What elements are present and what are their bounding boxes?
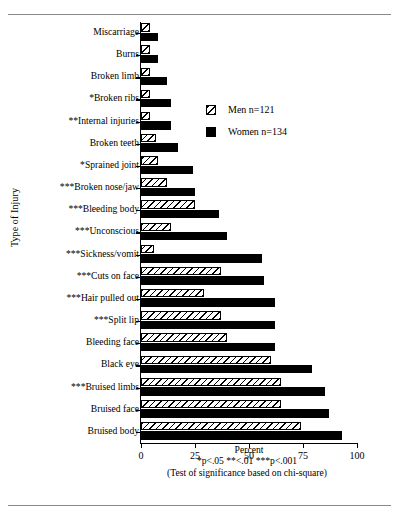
- bar-row: ***Sickness/vomit: [141, 244, 357, 266]
- category-label: Miscarriage: [93, 26, 139, 37]
- category-label: Black eye: [101, 358, 139, 369]
- x-axis-title: Percent: [141, 444, 357, 455]
- bar-row: ***Bleeding body: [141, 199, 357, 221]
- bar-women: [141, 387, 325, 395]
- bar-women: [141, 210, 219, 218]
- bar-men: [141, 178, 167, 186]
- bar-men: [141, 223, 171, 231]
- bar-men: [141, 422, 301, 430]
- bar-row: Bruised face: [141, 399, 357, 421]
- y-axis-title: Type of Injury: [9, 163, 20, 273]
- bar-row: ***Bruised limbs: [141, 377, 357, 399]
- bar-row: Bleeding face: [141, 332, 357, 354]
- legend-swatch-women-icon: [206, 127, 216, 137]
- bar-row: ***Split lip: [141, 310, 357, 332]
- bar-women: [141, 409, 329, 417]
- x-tick-mark: [357, 443, 358, 448]
- plot-area: MiscarriageBurnsBroken limb*Broken ribs*…: [141, 22, 357, 443]
- bar-men: [141, 289, 204, 297]
- bar-women: [141, 99, 171, 107]
- bar-women: [141, 365, 312, 373]
- bar-men: [141, 245, 154, 253]
- bar-men: [141, 311, 221, 319]
- bar-women: [141, 431, 342, 439]
- bar-women: [141, 232, 227, 240]
- category-label: ***Sickness/vomit: [66, 248, 139, 259]
- legend-swatch-men-icon: [206, 105, 216, 115]
- legend: Men n=121 Women n=134: [206, 104, 287, 148]
- bar-row: ***Cuts on face: [141, 266, 357, 288]
- bar-men: [141, 400, 281, 408]
- category-label: Broken limb: [91, 70, 139, 81]
- significance-note: *p<.05 **<.01 ***p<.001: [137, 455, 357, 466]
- category-label: Bruised face: [91, 403, 139, 414]
- category-label: ***Cuts on face: [77, 270, 139, 281]
- bar-men: [141, 45, 150, 53]
- category-label: Bleeding face: [86, 336, 139, 347]
- bar-women: [141, 121, 171, 129]
- bar-row: ***Unconscious: [141, 221, 357, 243]
- bar-women: [141, 276, 264, 284]
- bar-men: [141, 68, 150, 76]
- bar-women: [141, 321, 275, 329]
- bar-women: [141, 343, 275, 351]
- bar-men: [141, 200, 195, 208]
- figure-footnotes: Percent *p<.05 **<.01 ***p<.001 (Test of…: [141, 444, 357, 478]
- category-label: ***Broken nose/jaw: [60, 181, 139, 192]
- bar-women: [141, 55, 158, 63]
- bar-women: [141, 77, 167, 85]
- bar-row: Burns: [141, 44, 357, 66]
- category-label: Broken teeth: [90, 137, 139, 148]
- legend-label-women: Women n=134: [228, 126, 287, 137]
- bar-women: [141, 143, 178, 151]
- bar-men: [141, 23, 150, 31]
- bar-row: *Sprained joint: [141, 155, 357, 177]
- bar-row: ***Hair pulled out: [141, 288, 357, 310]
- bar-row: Bruised body: [141, 421, 357, 443]
- bar-row: Miscarriage: [141, 22, 357, 44]
- category-label: Bruised body: [88, 425, 139, 436]
- bar-men: [141, 378, 281, 386]
- bar-row: ***Broken nose/jaw: [141, 177, 357, 199]
- category-label: ***Split lip: [94, 314, 139, 325]
- bar-men: [141, 333, 227, 341]
- legend-item-men: Men n=121: [206, 104, 287, 115]
- bar-women: [141, 298, 275, 306]
- category-label: ***Bruised limbs: [71, 381, 139, 392]
- bar-men: [141, 356, 271, 364]
- bar-men: [141, 134, 156, 142]
- bar-women: [141, 166, 193, 174]
- bar-men: [141, 267, 221, 275]
- legend-item-women: Women n=134: [206, 126, 287, 137]
- figure-container: Type of Injury MiscarriageBurnsBroken li…: [0, 0, 399, 519]
- bar-women: [141, 33, 158, 41]
- category-label: Burns: [116, 48, 139, 59]
- bar-women: [141, 188, 195, 196]
- bar-row: Broken limb: [141, 66, 357, 88]
- bar-men: [141, 90, 150, 98]
- category-label: **Internal injuries: [68, 115, 139, 126]
- top-divider-rule: [8, 14, 391, 15]
- category-label: ***Hair pulled out: [67, 292, 139, 303]
- bar-women: [141, 254, 262, 262]
- legend-label-men: Men n=121: [228, 104, 274, 115]
- category-label: ***Unconscious: [75, 225, 139, 236]
- category-label: ***Bleeding body: [68, 203, 139, 214]
- test-note: (Test of significance based on chi-squar…: [137, 467, 357, 478]
- bottom-divider-rule: [8, 505, 391, 506]
- category-label: *Sprained joint: [80, 159, 139, 170]
- bar-row: Black eye: [141, 354, 357, 376]
- bar-men: [141, 112, 150, 120]
- bar-men: [141, 156, 158, 164]
- category-label: *Broken ribs: [89, 92, 139, 103]
